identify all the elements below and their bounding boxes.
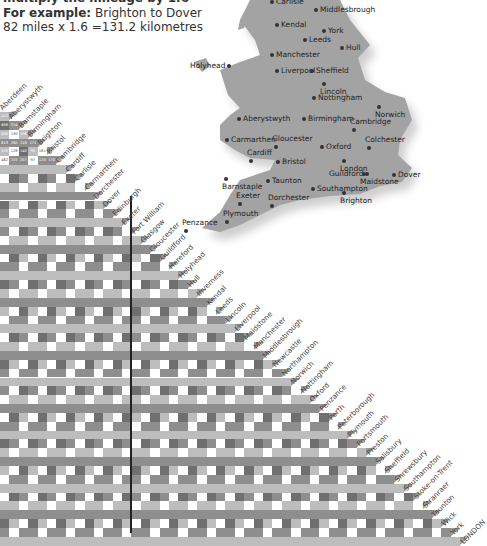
mileage-cell [131,386,140,395]
mileage-cell [188,493,197,502]
mileage-cell [188,307,197,316]
mileage-cell [197,324,206,333]
mileage-cell [197,528,206,537]
mileage-cell [197,448,206,457]
mileage-cell [235,360,244,369]
mileage-cell [347,501,356,510]
mileage-cell [19,466,28,475]
mileage-cell [0,475,9,484]
mileage-cell [56,457,65,466]
mileage-cell [28,413,37,422]
mileage-cell [178,519,187,528]
mileage-cell [113,501,122,510]
mileage-cell [235,501,244,510]
mileage-cell [244,378,253,387]
mileage-cell [103,519,112,528]
mileage-cell [357,537,366,546]
mileage-cell [94,307,103,316]
mileage-cell [254,510,263,519]
mileage-cell [38,422,47,431]
mileage-cell [141,262,150,271]
mileage-cell [216,386,225,395]
table-row [0,439,366,448]
town-dot-icon [237,117,241,121]
mileage-cell [56,422,65,431]
town-name: Hull [346,43,361,52]
mileage-cell [207,537,216,546]
mileage-cell [75,351,84,360]
mileage-cell [291,413,300,422]
mileage-cell [9,245,18,254]
mileage-cell [263,431,272,440]
mileage-cell [291,528,300,537]
mileage-cell [197,519,206,528]
mileage-cell [216,369,225,378]
mileage-cell [47,404,56,413]
town-name: Kendal [281,20,306,29]
mileage-cell [85,439,94,448]
mileage-cell [103,218,112,227]
town-name: Gloucester [272,134,313,143]
mileage-cell [150,466,159,475]
mileage-cell [56,475,65,484]
mileage-cell [225,448,234,457]
mileage-cell [103,422,112,431]
mileage-cell [28,475,37,484]
mileage-cell [66,324,75,333]
mileage-cell [56,289,65,298]
map-town: Birmingham [300,115,354,123]
mileage-cell [263,369,272,378]
mileage-cell: 140 [19,147,28,156]
mileage-cell [301,501,310,510]
mileage-cell [216,404,225,413]
mileage-cell [141,378,150,387]
mileage-cell [319,501,328,510]
mileage-cell [178,475,187,484]
mileage-cell [94,245,103,254]
mileage-cell [66,404,75,413]
mileage-cell [178,395,187,404]
mileage-cell [66,307,75,316]
mileage-cell [282,457,291,466]
mileage-cell [103,431,112,440]
mileage-cell [9,316,18,325]
mileage-cell [207,422,216,431]
mileage-cell [329,493,338,502]
mileage-cell [150,439,159,448]
mileage-cell [47,386,56,395]
mileage-cell [9,165,18,174]
mileage-cell [291,439,300,448]
table-row [0,493,422,502]
map-town: Plymouth [223,210,258,226]
town-name: Plymouth [223,209,258,218]
town-dot-icon [310,69,314,73]
mileage-cell [19,245,28,254]
mileage-cell [423,528,432,537]
mileage-cell [19,218,28,227]
mileage-cell [141,501,150,510]
table-row [0,333,253,342]
town-dot-icon [302,117,306,121]
mileage-cell [38,457,47,466]
table-row [0,369,291,378]
mileage-cell [47,316,56,325]
mileage-cell [141,422,150,431]
mileage-cell [113,351,122,360]
mileage-cell [56,466,65,475]
mileage-cell [56,439,65,448]
mileage-cell [338,448,347,457]
mileage-cell [113,298,122,307]
mileage-cell [38,324,47,333]
mileage-cell [272,519,281,528]
mileage-cell: 436 [0,130,9,139]
mileage-cell [131,510,140,519]
mileage-cell [75,280,84,289]
mileage-cell [150,316,159,325]
mileage-cell [169,342,178,351]
mileage-cell [225,360,234,369]
mileage-cell [75,201,84,210]
map-town: Carmarthen [223,136,276,144]
mileage-cell [347,519,356,528]
mileage-cell [9,209,18,218]
mileage-cell [366,466,375,475]
